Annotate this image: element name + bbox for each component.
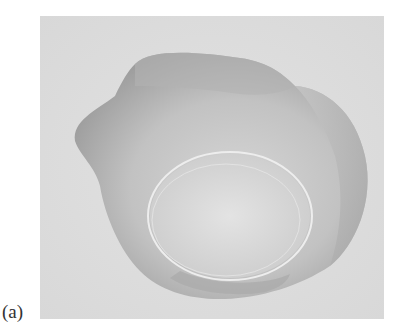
- bowl-object-illustration: [40, 16, 384, 319]
- specimen-photo: [40, 16, 384, 319]
- panel-label: (a): [2, 300, 23, 324]
